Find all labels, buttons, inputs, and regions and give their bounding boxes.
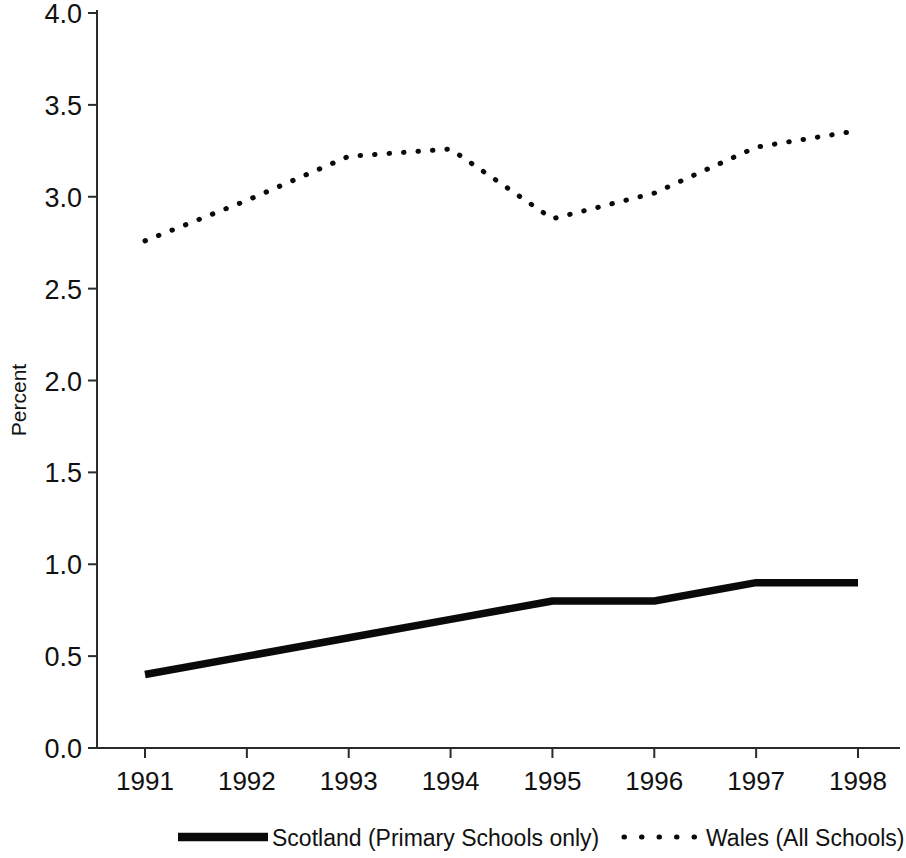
line-chart: 0.00.51.01.52.02.53.03.54.0 199119921993…: [0, 0, 906, 858]
y-axis-tick-labels: 0.00.51.01.52.02.53.03.54.0: [44, 0, 82, 764]
x-axis-tick-label: 1998: [829, 766, 887, 796]
series-line-wales: [145, 131, 858, 241]
y-axis-tick-label: 3.5: [44, 91, 82, 121]
chart-canvas: 0.00.51.01.52.02.53.03.54.0 199119921993…: [0, 0, 906, 858]
x-axis-tick-marks: [145, 748, 858, 758]
x-axis-tick-labels: 19911992199319941995199619971998: [116, 766, 887, 796]
y-axis-tick-label: 0.0: [44, 734, 82, 764]
y-axis-tick-label: 1.5: [44, 458, 82, 488]
legend-label-scotland: Scotland (Primary Schools only): [272, 825, 599, 851]
x-axis-tick-label: 1996: [625, 766, 683, 796]
y-axis-tick-label: 2.5: [44, 275, 82, 305]
y-axis-tick-label: 4.0: [44, 0, 82, 29]
x-axis-tick-label: 1991: [116, 766, 174, 796]
x-axis-tick-label: 1994: [422, 766, 480, 796]
legend-label-wales: Wales (All Schools): [706, 825, 905, 851]
y-axis-tick-label: 0.5: [44, 642, 82, 672]
y-axis-tick-label: 1.0: [44, 550, 82, 580]
y-axis-title: Percent: [7, 364, 30, 437]
y-axis-tick-label: 3.0: [44, 183, 82, 213]
series-line-scotland: [145, 583, 858, 675]
x-axis-tick-label: 1992: [218, 766, 276, 796]
x-axis-tick-label: 1993: [320, 766, 378, 796]
y-axis-tick-label: 2.0: [44, 367, 82, 397]
x-axis-tick-label: 1997: [727, 766, 785, 796]
x-axis-tick-label: 1995: [524, 766, 582, 796]
y-axis-tick-marks: [88, 13, 97, 748]
chart-legend: Scotland (Primary Schools only) Wales (A…: [178, 825, 905, 851]
